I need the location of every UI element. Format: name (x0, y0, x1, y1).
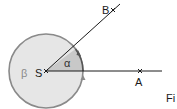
angle-diagram: B S A α β Fi (0, 0, 177, 109)
label-b: B (102, 4, 109, 16)
label-s: S (35, 67, 42, 79)
point-b-mark (111, 8, 115, 12)
label-a: A (135, 76, 143, 88)
label-alpha: α (64, 57, 71, 69)
caption-partial: Fi (166, 92, 175, 104)
label-beta: β (21, 67, 27, 79)
